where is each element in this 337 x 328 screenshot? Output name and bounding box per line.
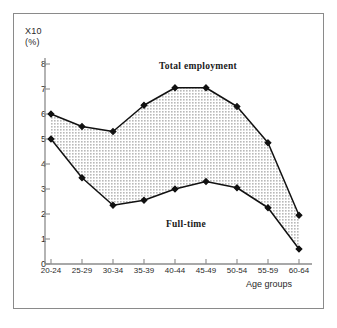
- x-tick-label-20-24: 20-24: [41, 266, 61, 275]
- x-tick-label-45-49: 45-49: [196, 266, 216, 275]
- series-label-total-employment: Total employment: [159, 61, 237, 71]
- figure-frame: [13, 13, 324, 309]
- x-tick-label-50-54: 50-54: [227, 266, 247, 275]
- y-axis-unit-label: X10 (%): [25, 26, 42, 48]
- y-tick-label-6: 6: [30, 109, 46, 119]
- figure-canvas: X10 (%) 8 7 6 5 4 3 2 1 0 20-24 25-29 30…: [0, 0, 337, 328]
- y-tick-label-4: 4: [30, 159, 46, 169]
- y-tick-label-5: 5: [30, 134, 46, 144]
- y-axis-unit-multiplier: X10: [25, 26, 42, 37]
- y-tick-label-3: 3: [30, 184, 46, 194]
- x-tick-label-40-44: 40-44: [165, 266, 185, 275]
- x-tick-label-60-64: 60-64: [289, 266, 309, 275]
- series-label-full-time: Full-time: [166, 219, 206, 229]
- x-axis-title: Age groups: [246, 279, 292, 289]
- x-tick-label-25-29: 25-29: [72, 266, 92, 275]
- y-tick-label-8: 8: [30, 59, 46, 69]
- x-tick-label-55-59: 55-59: [258, 266, 278, 275]
- y-axis-unit-percent: (%): [25, 37, 42, 48]
- x-tick-label-30-34: 30-34: [103, 266, 123, 275]
- y-tick-label-1: 1: [30, 234, 46, 244]
- x-tick-label-35-39: 35-39: [134, 266, 154, 275]
- series-label-part-time: Part-time: [165, 144, 207, 154]
- y-tick-label-7: 7: [30, 84, 46, 94]
- y-tick-label-2: 2: [30, 209, 46, 219]
